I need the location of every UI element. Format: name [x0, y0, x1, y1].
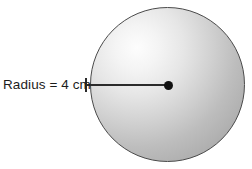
figure-canvas: Radius = 4 cm — [0, 0, 252, 169]
radius-label: Radius = 4 cm — [3, 76, 91, 93]
center-point-dot — [164, 81, 173, 90]
radius-line — [85, 84, 169, 86]
